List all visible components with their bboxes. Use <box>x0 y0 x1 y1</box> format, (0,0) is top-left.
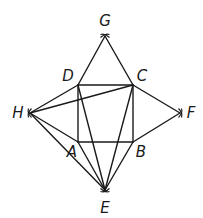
segment-ce <box>105 85 133 190</box>
geometry-diagram: A B C D E F G H <box>0 0 203 218</box>
segment-be <box>105 142 133 190</box>
label-g: G <box>99 12 111 30</box>
segment-gc <box>105 36 133 85</box>
segments-group <box>30 36 180 190</box>
segment-de <box>78 85 105 190</box>
label-c: C <box>137 67 148 85</box>
label-e: E <box>100 199 110 217</box>
label-f: F <box>187 104 196 122</box>
label-a: A <box>66 143 77 161</box>
segment-dg <box>78 36 105 85</box>
label-d: D <box>62 67 74 85</box>
construction-marks-group <box>28 34 182 192</box>
segment-fb <box>133 113 180 142</box>
label-b: B <box>136 143 146 161</box>
label-h: H <box>12 104 23 122</box>
segment-cf <box>133 85 180 113</box>
segment-hd <box>30 85 78 113</box>
